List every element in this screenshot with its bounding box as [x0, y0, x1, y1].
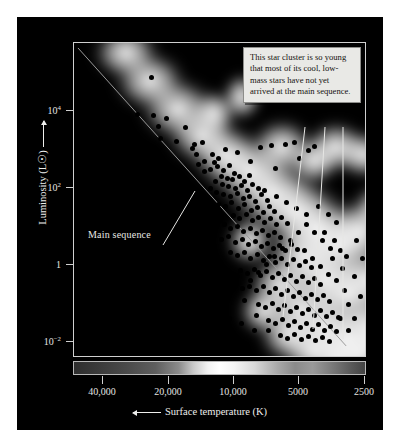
star-point — [292, 332, 297, 337]
star-point — [232, 171, 237, 176]
star-point — [318, 264, 323, 269]
star-point — [149, 75, 154, 80]
star-point — [346, 302, 351, 307]
star-point — [219, 174, 224, 179]
star-point — [240, 237, 245, 242]
main-sequence-label: Main sequence — [88, 229, 151, 240]
star-point — [279, 292, 284, 297]
star-point — [191, 244, 196, 249]
star-point — [334, 278, 339, 283]
star-point — [321, 293, 326, 298]
star-point — [334, 220, 339, 225]
star-point — [265, 241, 270, 246]
star-point — [270, 301, 275, 306]
star-point — [274, 194, 279, 199]
star-point — [156, 124, 161, 129]
star-point — [201, 221, 206, 226]
star-point — [196, 162, 201, 167]
star-point — [267, 254, 272, 259]
star-point — [304, 321, 309, 326]
star-point — [259, 244, 264, 249]
star-point — [334, 329, 339, 334]
star-point — [247, 173, 252, 178]
star-point — [253, 239, 258, 244]
star-point — [269, 143, 274, 148]
x-axis-arrow-icon — [133, 412, 161, 413]
star-point — [151, 113, 156, 118]
x-axis-tick-label: 2500 — [354, 386, 374, 397]
star-point — [291, 294, 296, 299]
star-point — [318, 282, 323, 287]
star-point — [267, 204, 272, 209]
star-point — [263, 305, 268, 310]
star-point — [235, 253, 240, 258]
star-point — [254, 288, 259, 293]
annotation-text: This star cluster is so young that most … — [250, 52, 350, 96]
star-point — [306, 280, 311, 285]
star-point — [256, 302, 261, 307]
star-point — [174, 139, 179, 144]
star-point — [226, 184, 231, 189]
star-point — [268, 216, 273, 221]
star-point — [338, 316, 343, 321]
star-point — [282, 303, 287, 308]
star-point — [316, 204, 321, 209]
star-point — [276, 307, 281, 312]
star-point — [297, 290, 302, 295]
x-axis-tick-label: 5000 — [288, 386, 308, 397]
star-point — [248, 278, 253, 283]
star-point — [326, 272, 331, 277]
star-point — [223, 147, 228, 152]
star-point — [237, 174, 242, 179]
star-point — [285, 221, 290, 226]
star-point — [342, 288, 347, 293]
star-point — [235, 224, 240, 229]
star-point — [298, 325, 303, 330]
star-point — [247, 284, 252, 289]
y-axis-tick-label: 102 — [48, 181, 61, 193]
y-axis-tick — [66, 110, 73, 111]
star-point — [254, 313, 259, 318]
star-point — [266, 318, 271, 323]
star-point — [280, 246, 285, 251]
star-point — [276, 271, 281, 276]
y-axis-tick-label: 104 — [48, 104, 61, 116]
y-axis-tick — [66, 187, 73, 188]
x-axis-tick — [102, 376, 103, 384]
star-point — [294, 206, 299, 211]
star-point — [303, 296, 308, 301]
star-point — [328, 324, 333, 329]
star-point — [282, 277, 287, 282]
star-point — [358, 294, 363, 299]
star-point — [318, 308, 323, 313]
star-point — [274, 222, 279, 227]
y-axis-label: Luminosity (L☉) — [36, 88, 48, 258]
star-point — [233, 240, 238, 245]
star-point — [214, 190, 219, 195]
star-point — [320, 238, 325, 243]
star-point — [235, 191, 240, 196]
star-point — [221, 168, 226, 173]
star-point — [210, 152, 215, 157]
star-point — [202, 169, 207, 174]
star-point — [221, 192, 226, 197]
star-point — [249, 208, 254, 213]
x-axis-tick — [233, 376, 234, 384]
star-point — [184, 212, 189, 217]
star-point — [300, 311, 305, 316]
star-point — [228, 226, 233, 231]
star-point — [261, 210, 266, 215]
star-point — [264, 262, 269, 267]
star-point — [219, 237, 224, 242]
star-point — [340, 266, 345, 271]
star-point — [206, 262, 211, 267]
y-axis-arrow-icon — [43, 121, 44, 147]
star-point — [278, 333, 283, 338]
star-point — [242, 250, 247, 255]
star-point — [223, 204, 228, 209]
star-point — [327, 299, 332, 304]
star-point — [244, 212, 249, 217]
star-point — [164, 116, 169, 121]
star-point — [190, 146, 195, 151]
star-point — [242, 298, 247, 303]
